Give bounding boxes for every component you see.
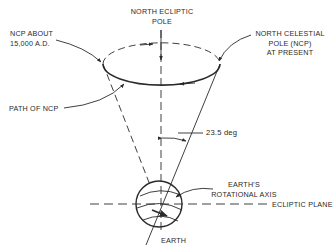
ncp-path-back bbox=[103, 43, 220, 64]
future-axis-line bbox=[103, 64, 150, 185]
tilt-angle-arc bbox=[162, 138, 186, 141]
rotational-axis-line bbox=[146, 64, 220, 245]
label-ecliptic-plane: ECLIPTIC PLANE bbox=[272, 200, 333, 210]
label-ncp-future: NCP ABOUT 15,000 A.D. bbox=[10, 29, 53, 48]
label-north-ecliptic-pole: NORTH ECLIPTIC POLE bbox=[124, 7, 200, 26]
leader-ncp-present bbox=[219, 35, 251, 61]
leader-ncp-future bbox=[56, 40, 101, 62]
label-path-of-ncp: PATH OF NCP bbox=[9, 104, 58, 114]
label-tilt-angle: 23.5 deg bbox=[206, 128, 237, 138]
ncp-path-front bbox=[103, 64, 220, 85]
label-ncp-present: NORTH CELESTIAL POLE (NCP) AT PRESENT bbox=[252, 29, 328, 58]
label-rotational-axis: EARTH'S ROTATIONAL AXIS bbox=[208, 180, 280, 199]
label-earth: EARTH bbox=[161, 236, 186, 246]
